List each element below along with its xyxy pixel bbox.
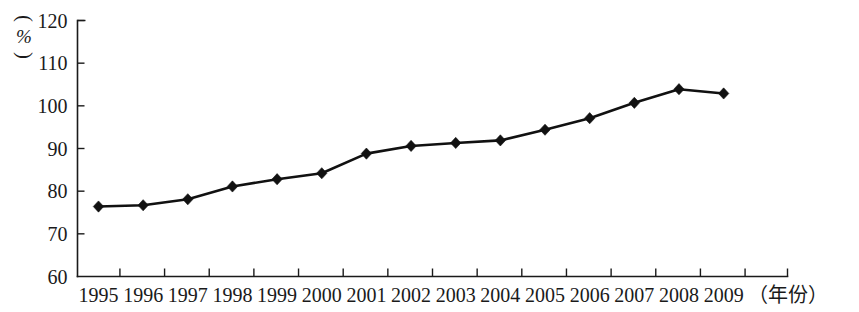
y-tick-label: 70: [48, 223, 68, 245]
data-point-marker: [540, 124, 550, 135]
chart-canvas: 60708090100110120 1995199619971998199920…: [0, 0, 859, 312]
x-axis-caption: （年份）: [748, 284, 828, 306]
data-point-marker: [138, 200, 148, 211]
y-axis: 60708090100110120: [38, 10, 85, 288]
data-point-marker: [495, 135, 505, 146]
x-tick-label: 2002: [391, 284, 431, 306]
x-tick-label: 2004: [480, 284, 520, 306]
data-point-marker: [451, 137, 461, 148]
x-tick-label: 2007: [614, 284, 654, 306]
x-tick-label: 2009: [704, 284, 744, 306]
y-tick-label: 110: [38, 52, 67, 74]
x-tick-label: 2003: [436, 284, 476, 306]
data-point-marker: [93, 201, 103, 212]
data-point-marker: [317, 168, 327, 179]
y-tick-label: 90: [48, 138, 68, 160]
data-point-marker: [272, 174, 282, 185]
y-tick-label: 120: [38, 10, 68, 32]
x-tick-label: 1996: [123, 284, 163, 306]
data-point-marker: [584, 113, 594, 124]
x-tick-label: 1997: [168, 284, 208, 306]
data-point-marker: [183, 194, 193, 205]
x-tick-label: 2001: [346, 284, 386, 306]
y-tick-label: 60: [48, 266, 68, 288]
data-point-marker: [718, 88, 728, 99]
data-series: [93, 84, 729, 213]
y-tick-label: 80: [48, 180, 68, 202]
x-tick-label: 2006: [570, 284, 610, 306]
line-chart-figure: ( % ) 60708090100110120 1995199619971998…: [0, 0, 859, 312]
x-axis: 1995199619971998199920002001200220032004…: [78, 21, 788, 307]
x-tick-label: 2000: [302, 284, 342, 306]
data-point-marker: [361, 148, 371, 159]
x-tick-label: 2008: [659, 284, 699, 306]
y-tick-label: 100: [38, 95, 68, 117]
x-tick-label: 1999: [257, 284, 297, 306]
x-tick-label: 2005: [525, 284, 565, 306]
data-point-marker: [629, 97, 639, 108]
data-point-marker: [674, 84, 684, 95]
data-point-marker: [406, 140, 416, 151]
x-tick-label: 1995: [78, 284, 118, 306]
x-tick-label: 1998: [212, 284, 252, 306]
data-point-marker: [227, 181, 237, 192]
